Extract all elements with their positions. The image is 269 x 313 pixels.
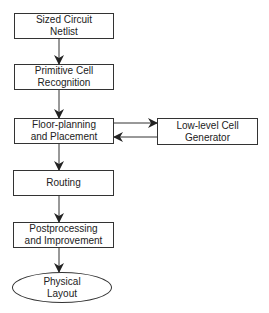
- node-postprocessing-improvement: Postprocessingand Improvement: [13, 222, 114, 248]
- node-label-line1: Postprocessing: [29, 223, 97, 234]
- node-floor-planning-placement: Floor-planningand Placement: [14, 118, 114, 144]
- node-physical-layout: PhysicalLayout: [12, 272, 112, 303]
- node-label-line1: Primitive Cell: [35, 65, 93, 76]
- node-label-line1: Physical: [43, 276, 80, 287]
- node-label-line1: Low-level Cell: [176, 120, 238, 131]
- node-label-line1: Sized Circuit: [36, 14, 92, 25]
- node-label-line2: Generator: [185, 132, 230, 143]
- node-label-line2: Netlist: [50, 26, 78, 37]
- node-label-line2: Recognition: [38, 77, 91, 88]
- connector-layer: [0, 0, 269, 313]
- node-label-line1: Routing: [46, 177, 80, 188]
- node-label-line1: Floor-planning: [32, 119, 96, 130]
- node-label-line2: and Improvement: [25, 235, 103, 246]
- node-primitive-cell-recognition: Primitive CellRecognition: [14, 64, 114, 90]
- node-label-line2: Layout: [47, 288, 77, 299]
- node-routing: Routing: [13, 170, 114, 196]
- node-low-level-cell-generator: Low-level CellGenerator: [157, 118, 258, 145]
- node-label-line2: and Placement: [31, 131, 98, 142]
- node-sized-circuit-netlist: Sized CircuitNetlist: [14, 13, 114, 39]
